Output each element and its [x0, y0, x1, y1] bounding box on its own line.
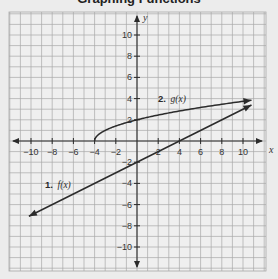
x-axis-label: x: [268, 144, 274, 155]
x-tick-label: 8: [219, 147, 224, 157]
y-tick-label: −4: [122, 178, 132, 188]
y-tick-label: 6: [127, 72, 132, 82]
x-tick-label: 6: [198, 147, 203, 157]
f-label-number: 1.: [45, 179, 53, 190]
x-tick-label: 10: [238, 147, 248, 157]
f-label-name: f(x): [58, 180, 71, 191]
x-tick-label: −4: [89, 147, 99, 157]
function-graph: Graphing Functions −10−8−6−4−22468101086…: [0, 0, 278, 279]
x-tick-label: −6: [68, 147, 78, 157]
g-label-number: 2.: [158, 93, 166, 104]
f-label: 1. f(x): [45, 179, 71, 191]
x-tick-label: −8: [47, 147, 57, 157]
x-tick-label: −2: [111, 147, 121, 157]
title-fragment: Graphing Functions: [77, 0, 201, 6]
g-label-name: g(x): [171, 94, 186, 105]
x-tick-label: 4: [177, 147, 182, 157]
y-tick-label: −6: [122, 200, 132, 210]
y-tick-label: 2: [127, 115, 132, 125]
y-tick-label: 4: [127, 94, 132, 104]
y-tick-label: 8: [127, 51, 132, 61]
x-tick-label: −10: [23, 147, 38, 157]
y-tick-label: −10: [117, 242, 132, 252]
y-tick-label: −8: [122, 221, 132, 231]
g-label: 2. g(x): [158, 93, 186, 105]
y-axis-label: y: [142, 12, 148, 23]
y-tick-label: 10: [122, 30, 132, 40]
